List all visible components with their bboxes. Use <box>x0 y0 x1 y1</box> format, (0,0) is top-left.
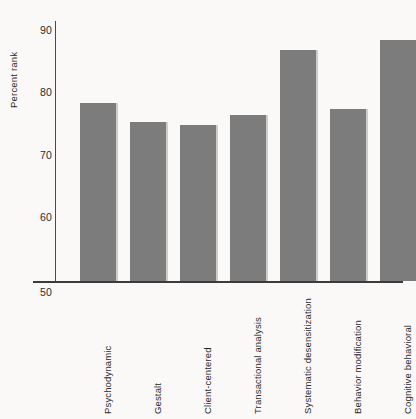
x-tick-label-cognitive-behavioral: Cognitive behavioral <box>402 325 413 414</box>
y-axis-tick-labels: 90 80 70 60 50 <box>0 0 52 419</box>
x-tick-label-gestalt: Gestalt <box>152 383 163 414</box>
y-tick-label: 50 <box>40 286 52 298</box>
bar-client-centered <box>180 125 216 281</box>
x-tick-label-behavior-modification: Behavior modification <box>352 320 363 414</box>
x-axis-line <box>33 281 403 283</box>
x-tick-label-psychodynamic: Psychodynamic <box>102 346 113 414</box>
bar-gestalt <box>130 122 166 281</box>
y-tick-label: 60 <box>40 211 52 223</box>
bars-layer <box>56 20 403 281</box>
bar-systematic-desensitization <box>280 50 316 281</box>
x-tick-label-systematic-desensitization: Systematic desensitization <box>302 298 313 414</box>
y-tick-label: 70 <box>40 149 52 161</box>
y-tick-label: 80 <box>40 86 52 98</box>
bar-psychodynamic <box>80 103 116 281</box>
x-tick-label-client-centered: Client-centered <box>202 347 213 414</box>
x-axis-tick-labels: Psychodynamic Gestalt Client-centered Tr… <box>56 284 403 419</box>
bar-transactional-analysis <box>230 115 266 281</box>
bar-cognitive-behavioral <box>380 40 416 281</box>
x-tick-label-transactional-analysis: Transactional analysis <box>252 317 263 414</box>
y-tick-label: 90 <box>40 24 52 36</box>
bar-behavior-modification <box>330 109 366 281</box>
